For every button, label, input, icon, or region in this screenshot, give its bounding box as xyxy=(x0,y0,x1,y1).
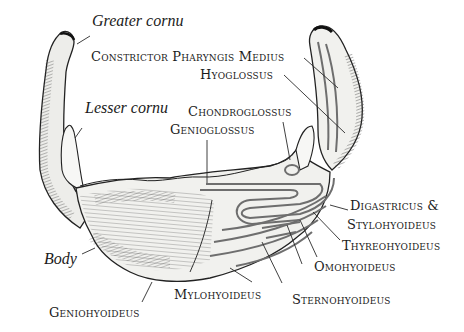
label-lesser-cornu: Lesser cornu xyxy=(85,100,168,116)
hyoid-body xyxy=(76,150,330,281)
label-thyreohyoideus: Thyreohyoideus xyxy=(342,239,440,252)
label-stylohyoideus: Stylohyoideus xyxy=(347,218,436,231)
label-digastricus: Digastricus & xyxy=(350,199,439,212)
label-chondroglossus: Chondroglossus xyxy=(188,105,292,118)
label-sternohyoideus: Sternohyoideus xyxy=(292,293,391,306)
label-geniohyoideus: Geniohyoideus xyxy=(49,306,140,319)
label-constrictor-pharyngis-medius: Constrictor Pharyngis Medius xyxy=(91,50,284,63)
label-body: Body xyxy=(44,251,77,267)
label-genioglossus: Genioglossus xyxy=(170,123,255,136)
right-greater-cornu xyxy=(309,26,362,170)
label-greater-cornu: Greater cornu xyxy=(92,13,183,29)
label-omohyoideus: Omohyoideus xyxy=(314,260,396,273)
hyoid-diagram: Greater cornu Constrictor Pharyngis Medi… xyxy=(0,0,464,332)
label-mylohyoideus: Mylohyoideus xyxy=(174,288,261,301)
label-hyoglossus: Hyoglossus xyxy=(200,68,273,81)
